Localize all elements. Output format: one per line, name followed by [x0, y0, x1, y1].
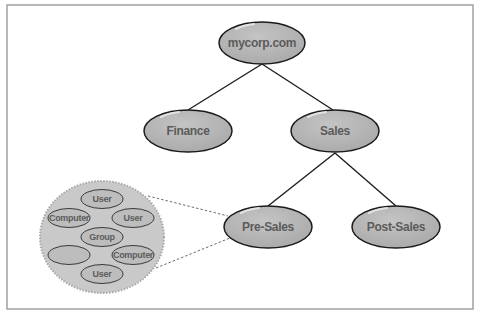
node-pre-sales[interactable]: Pre-Sales [224, 206, 312, 248]
object-label: User [93, 194, 113, 204]
node-post-sales[interactable]: Post-Sales [352, 206, 440, 248]
node-finance[interactable]: Finance [144, 110, 232, 152]
ou-hierarchy-diagram: mycorp.com Finance Sales Pre-Sales Post-… [0, 0, 479, 314]
object-user-right[interactable]: User [112, 209, 154, 228]
node-label: Sales [320, 124, 350, 138]
object-label: Computer [49, 213, 90, 223]
node-label: mycorp.com [228, 36, 296, 50]
node-mycorp-com[interactable]: mycorp.com [219, 22, 305, 64]
ou-detail-circle: User Computer User Group Computer User [40, 181, 164, 293]
object-computer-right[interactable]: Computer [112, 246, 154, 265]
object-user-top[interactable]: User [81, 190, 123, 209]
object-label: Computer [113, 250, 154, 260]
object-label: User [93, 269, 113, 279]
object-user-bottom[interactable]: User [81, 265, 123, 284]
object-group[interactable]: Group [81, 228, 123, 247]
node-label: Pre-Sales [242, 220, 295, 234]
object-blank[interactable] [48, 246, 90, 265]
node-label: Finance [166, 124, 210, 138]
object-label: User [124, 213, 144, 223]
object-label: Group [89, 232, 115, 242]
node-sales[interactable]: Sales [291, 110, 379, 152]
object-computer-left[interactable]: Computer [48, 209, 90, 228]
object-ellipse [48, 246, 90, 265]
node-label: Post-Sales [367, 220, 426, 234]
